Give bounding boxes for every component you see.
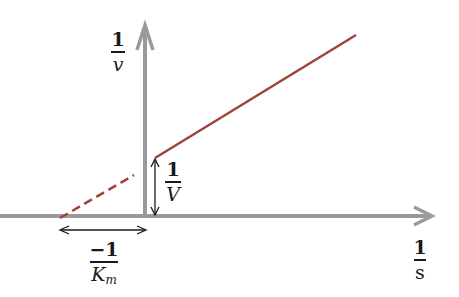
y-intercept-label: 1 V bbox=[160, 160, 186, 204]
x-intercept-label-denominator: Km bbox=[84, 263, 124, 286]
x-intercept-label-numerator: −1 bbox=[84, 240, 124, 261]
y-intercept-label-numerator: 1 bbox=[160, 160, 186, 181]
x-axis-label: 1 s bbox=[410, 238, 430, 282]
y-axis-label-denominator: v bbox=[106, 53, 130, 74]
data-line bbox=[155, 35, 356, 158]
y-axis-label-numerator: 1 bbox=[106, 30, 130, 51]
lineweaver-burk-plot bbox=[0, 0, 459, 297]
x-axis-label-numerator: 1 bbox=[410, 238, 430, 259]
x-axis-label-denominator: s bbox=[410, 261, 430, 282]
y-axis-label: 1 v bbox=[106, 30, 130, 74]
x-intercept-label: −1 Km bbox=[84, 240, 124, 286]
km-main: K bbox=[91, 263, 105, 285]
km-subscript: m bbox=[105, 273, 116, 287]
extrapolation-line bbox=[60, 175, 134, 218]
y-intercept-label-denominator: V bbox=[160, 183, 186, 204]
